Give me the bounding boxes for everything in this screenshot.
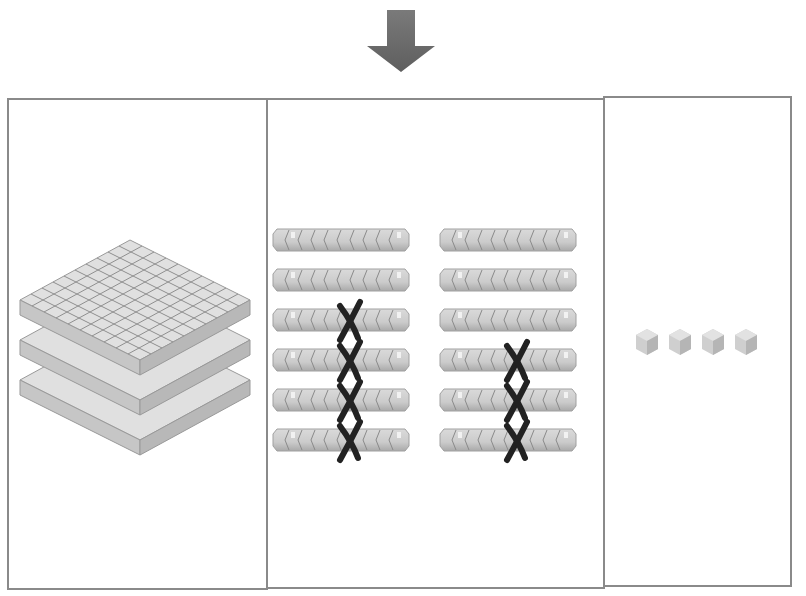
ones-cubes (630, 325, 770, 359)
down-arrow-icon (365, 10, 437, 74)
tens-panel (266, 98, 605, 589)
hundreds-flats (15, 205, 255, 475)
